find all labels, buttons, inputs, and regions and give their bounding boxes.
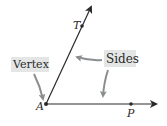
point-p bbox=[129, 102, 133, 106]
vertex-callout-label: Vertex bbox=[12, 58, 50, 71]
ray-at bbox=[46, 7, 91, 104]
vertex-callout-arrow-icon bbox=[34, 74, 43, 99]
vertex-point bbox=[44, 102, 48, 106]
point-t bbox=[80, 24, 84, 28]
point-p-label: P bbox=[126, 107, 135, 120]
vertex-label: A bbox=[35, 100, 44, 113]
angle-diagram: A T P Vertex Sides bbox=[0, 0, 167, 126]
sides-callout-arrow-down-icon bbox=[103, 70, 108, 96]
sides-callout-label: Sides bbox=[106, 52, 139, 66]
sides-callout-arrow-left-icon bbox=[77, 57, 102, 60]
